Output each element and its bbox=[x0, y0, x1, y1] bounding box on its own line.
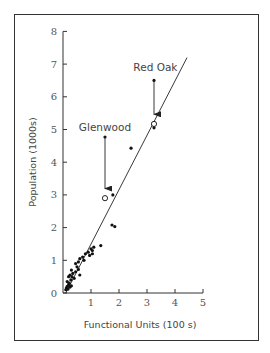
data-point bbox=[74, 262, 77, 265]
data-point bbox=[82, 259, 85, 262]
data-point bbox=[78, 257, 81, 260]
x-tick-label: 1 bbox=[88, 297, 94, 308]
y-tick-label: 3 bbox=[51, 189, 57, 200]
data-point bbox=[99, 244, 102, 247]
x-tick-label: 3 bbox=[144, 297, 150, 308]
annotation-label: Red Oak bbox=[133, 61, 178, 73]
data-point bbox=[129, 147, 132, 150]
y-tick-label: 5 bbox=[51, 124, 57, 135]
data-point bbox=[87, 251, 90, 254]
annotation-label: Glenwood bbox=[79, 121, 131, 133]
x-tick-label: 2 bbox=[116, 297, 122, 308]
data-point bbox=[78, 273, 81, 276]
x-tick-label: 4 bbox=[172, 297, 178, 308]
annotations: GlenwoodRed Oak bbox=[79, 61, 178, 189]
y-tick-label: 8 bbox=[51, 26, 57, 37]
data-point bbox=[91, 249, 94, 252]
open-circle-point bbox=[151, 121, 156, 126]
data-point bbox=[70, 284, 73, 287]
data-point bbox=[84, 252, 87, 255]
data-point bbox=[110, 223, 113, 226]
data-point bbox=[70, 269, 73, 272]
y-tick-label: 0 bbox=[51, 288, 57, 299]
data-point bbox=[92, 246, 95, 249]
data-point bbox=[77, 260, 80, 263]
y-tick-label: 7 bbox=[51, 59, 57, 70]
open-circle-point bbox=[102, 196, 107, 201]
data-points bbox=[64, 79, 156, 291]
data-point bbox=[71, 272, 74, 275]
y-tick-label: 6 bbox=[51, 91, 57, 102]
data-point bbox=[111, 193, 114, 196]
axes: 01234567812345 bbox=[51, 26, 207, 308]
data-point bbox=[69, 278, 72, 281]
data-point bbox=[91, 252, 94, 255]
data-point bbox=[66, 280, 69, 283]
y-tick-label: 2 bbox=[51, 222, 57, 233]
data-point bbox=[73, 277, 76, 280]
data-point bbox=[77, 268, 80, 271]
data-point bbox=[81, 255, 84, 258]
y-tick-label: 1 bbox=[51, 255, 57, 266]
data-point bbox=[74, 270, 77, 273]
data-point bbox=[113, 225, 116, 228]
y-axis-label: Population (1000s) bbox=[27, 117, 38, 206]
data-point bbox=[88, 254, 91, 257]
scatter-plot: 01234567812345 GlenwoodRed Oak Functiona… bbox=[0, 0, 270, 353]
x-tick-label: 5 bbox=[200, 297, 206, 308]
x-axis-label: Functional Units (100 s) bbox=[84, 319, 197, 330]
y-tick-label: 4 bbox=[51, 157, 57, 168]
